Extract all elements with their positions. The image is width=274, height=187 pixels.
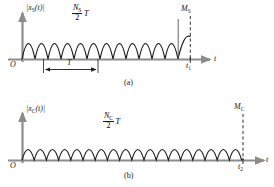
panel-a-half-period-label: NS 2 T bbox=[72, 4, 88, 22]
panel-a-axes bbox=[8, 13, 210, 62]
panel-b-half-period-multiplier: T bbox=[114, 117, 120, 126]
panel-b-peak-label: MC bbox=[234, 103, 244, 111]
panel-a-half-period-multiplier: T bbox=[82, 9, 88, 18]
panel-a-origin-label: O bbox=[10, 61, 16, 69]
panel-b-caption: (b) bbox=[124, 172, 133, 180]
panel-b-origin-label: O bbox=[10, 162, 16, 170]
panel-a-period-label: T bbox=[67, 59, 71, 67]
panel-a-y-axis-label: |xS(t)| bbox=[26, 4, 45, 12]
panel-a-half-period-denominator: 2 bbox=[75, 14, 79, 23]
panel-a-peak-label: MS bbox=[181, 5, 191, 13]
panel-b-waveform bbox=[22, 150, 242, 161]
panel-a-t1-label: t1 bbox=[186, 62, 191, 70]
panel-a-waveform bbox=[22, 36, 190, 59]
panel-b-y-axis-label: |xC(t)| bbox=[26, 105, 45, 113]
panel-b-axes bbox=[8, 113, 264, 163]
panel-a-caption: (a) bbox=[124, 79, 133, 87]
figure-container: |xS(t)| O t NS 2 T MS t1 T (a) |xC(t)| O… bbox=[0, 0, 274, 187]
panel-a-half-period-numerator: NS bbox=[72, 4, 82, 13]
panel-b-half-period-label: NC 2 T bbox=[103, 112, 120, 130]
panel-b-x-axis-label: t bbox=[266, 156, 268, 164]
panel-b-t2-label: t2 bbox=[238, 163, 243, 171]
waveform-plot-svg bbox=[0, 0, 274, 187]
panel-a-x-axis-label: t bbox=[214, 55, 216, 63]
panel-b-half-period-numerator: NC bbox=[103, 112, 114, 121]
panel-b-half-period-denominator: 2 bbox=[107, 122, 111, 131]
